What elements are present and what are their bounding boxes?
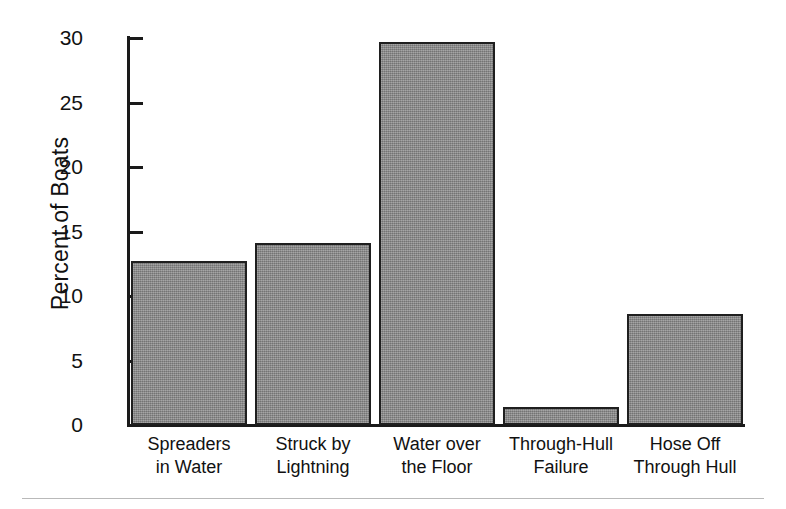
bar — [379, 42, 495, 425]
y-tick-label-20: 20 — [23, 156, 83, 177]
category-label-line: Hose Off — [627, 433, 743, 456]
category-label-line: Spreaders — [131, 433, 247, 456]
category-label-line: Through-Hull — [503, 433, 619, 456]
bar — [255, 243, 371, 425]
y-tick-label-5: 5 — [23, 350, 83, 371]
category-label-line: Failure — [503, 456, 619, 479]
bars-group — [131, 38, 743, 425]
y-tick-label-30: 30 — [23, 27, 83, 48]
category-label-line: the Floor — [379, 456, 495, 479]
category-label-line: Struck by — [255, 433, 371, 456]
category-label-line: in Water — [131, 456, 247, 479]
bar — [503, 407, 619, 425]
x-axis-category-labels: Spreadersin WaterStruck byLightningWater… — [127, 433, 745, 489]
bar — [131, 261, 247, 425]
category-label: Through-HullFailure — [503, 433, 619, 480]
y-tick-label-0: 0 — [23, 414, 83, 435]
footer-rule — [22, 498, 764, 499]
category-label: Spreadersin Water — [131, 433, 247, 480]
bar — [627, 314, 743, 425]
category-label-line: Through Hull — [627, 456, 743, 479]
y-tick-label-15: 15 — [23, 221, 83, 242]
category-label: Struck byLightning — [255, 433, 371, 480]
category-label: Water overthe Floor — [379, 433, 495, 480]
y-tick-label-25: 25 — [23, 92, 83, 113]
y-tick-label-10: 10 — [23, 285, 83, 306]
category-label-line: Water over — [379, 433, 495, 456]
category-label: Hose OffThrough Hull — [627, 433, 743, 480]
bar-chart: Percent of Boats 051015202530 Spreadersi… — [0, 0, 786, 509]
category-label-line: Lightning — [255, 456, 371, 479]
